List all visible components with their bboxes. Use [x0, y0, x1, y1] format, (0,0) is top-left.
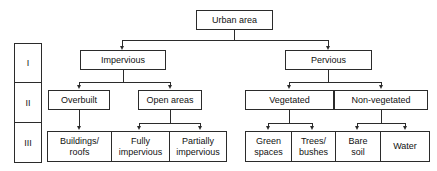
node-overbuilt-label: Overbuilt	[51, 95, 107, 106]
node-bare-soil-line2: soil	[351, 147, 365, 157]
node-green-spaces-line1: Green	[256, 136, 281, 146]
connector-impervious-bus	[79, 82, 171, 83]
arrowhead-buildings-roofs	[77, 126, 81, 130]
node-vegetated-label: Vegetated	[248, 95, 331, 106]
node-non-vegetated: Non-vegetated	[334, 90, 428, 110]
node-trees-bushes-line2: bushes	[299, 147, 328, 157]
node-buildings-roofs-label: Buildings/ roofs	[50, 136, 109, 157]
connector-non-vegetated-bus	[357, 123, 406, 124]
node-buildings-roofs: Buildings/ roofs	[47, 131, 112, 162]
node-overbuilt: Overbuilt	[48, 90, 110, 110]
connector-overbuilt-stem	[79, 110, 80, 127]
level-label-1: I	[27, 58, 30, 68]
node-fully-impervious-line2: impervious	[119, 147, 163, 157]
node-green-spaces-label: Green spaces	[248, 136, 289, 157]
node-water-label: Water	[383, 141, 427, 152]
level-label-2: II	[25, 98, 30, 108]
node-trees-bushes-line1: Trees/	[301, 136, 326, 146]
node-trees-bushes-label: Trees/ bushes	[294, 136, 333, 157]
arrowhead-non-vegetated	[379, 85, 383, 89]
node-green-spaces: Green spaces	[245, 131, 292, 162]
node-fully-impervious-label: Fully impervious	[114, 136, 167, 157]
node-partially-impervious: Partially impervious	[169, 131, 227, 162]
level-cell-1: I	[14, 43, 42, 83]
arrowhead-fully-impervious	[137, 126, 141, 130]
connector-non-vegetated-stem	[381, 110, 382, 123]
level-cell-3: III	[14, 122, 42, 163]
node-fully-impervious: Fully impervious	[111, 131, 170, 162]
connector-open-areas-stem	[170, 110, 171, 123]
node-open-areas: Open areas	[138, 90, 202, 110]
arrowhead-trees-bushes	[310, 126, 314, 130]
node-buildings-roofs-line2: roofs	[69, 147, 89, 157]
node-partially-impervious-line1: Partially	[182, 136, 214, 146]
connector-pervious-bus	[289, 82, 382, 83]
node-impervious: Impervious	[80, 50, 166, 70]
node-urban-area-label: Urban area	[199, 15, 270, 26]
level-label-3: III	[24, 138, 32, 148]
connector-pervious-stem	[328, 70, 329, 82]
connector-open-areas-bus	[139, 123, 201, 124]
node-pervious-label: Pervious	[288, 55, 369, 66]
node-vegetated: Vegetated	[245, 90, 334, 110]
level-cell-2: II	[14, 82, 42, 123]
diagram-canvas: I II III Urban area Impervious Pervious …	[0, 0, 437, 171]
connector-vegetated-bus	[268, 123, 313, 124]
node-bare-soil-line1: Bare	[348, 136, 367, 146]
connector-root-bus	[122, 40, 329, 41]
node-non-vegetated-label: Non-vegetated	[337, 95, 425, 106]
node-bare-soil-label: Bare soil	[338, 136, 378, 157]
node-water: Water	[380, 131, 430, 162]
arrowhead-overbuilt	[77, 85, 81, 89]
arrowhead-bare-soil	[355, 126, 359, 130]
node-fully-impervious-line1: Fully	[131, 136, 150, 146]
arrowhead-water	[403, 126, 407, 130]
node-bare-soil: Bare soil	[335, 131, 381, 162]
node-partially-impervious-label: Partially impervious	[172, 136, 224, 157]
connector-vegetated-stem	[289, 110, 290, 123]
arrowhead-green-spaces	[266, 126, 270, 130]
arrowhead-open-areas	[168, 85, 172, 89]
connector-root-stem	[234, 30, 235, 40]
connector-impervious-stem	[123, 70, 124, 82]
node-buildings-roofs-line1: Buildings/	[60, 136, 99, 146]
arrowhead-vegetated	[287, 85, 291, 89]
node-urban-area: Urban area	[196, 10, 273, 30]
node-trees-bushes: Trees/ bushes	[291, 131, 336, 162]
node-pervious: Pervious	[285, 50, 372, 70]
arrowhead-partially-impervious	[198, 126, 202, 130]
node-green-spaces-line2: spaces	[254, 147, 283, 157]
node-impervious-label: Impervious	[83, 55, 163, 66]
node-partially-impervious-line2: impervious	[176, 147, 220, 157]
node-open-areas-label: Open areas	[141, 95, 199, 106]
